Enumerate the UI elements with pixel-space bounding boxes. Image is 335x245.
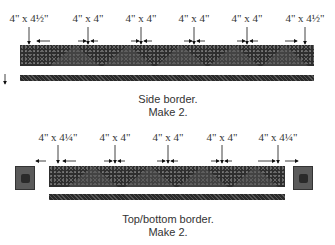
press-arrows-icon — [0, 0, 335, 245]
